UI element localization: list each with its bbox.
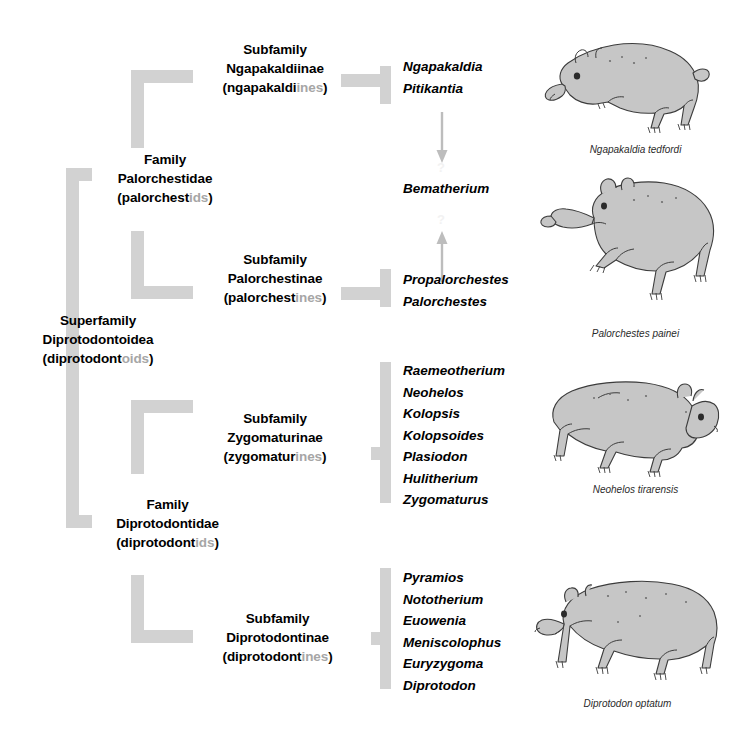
arrow-down-to-bematherium (432, 112, 452, 166)
family-palorchestidae-name: Palorchestidae (85, 169, 245, 188)
sub1-vern-close: ) (322, 290, 326, 305)
superfamily-vernacular: (diprotodontoids) (18, 349, 178, 368)
uncertainty-marker-lower: ? (437, 212, 445, 227)
uncertainty-marker-upper: ? (437, 160, 445, 175)
subfamily-zygomaturinae-rank: Subfamily (190, 409, 360, 428)
genus-item: Pyramios (403, 567, 501, 589)
connector-palorchestinae-vertical (380, 269, 391, 307)
genus-item: Plasiodon (403, 446, 505, 468)
family-diprotodontidae-vernacular: (diprotodontids) (80, 533, 255, 552)
label-superfamily: Superfamily Diprotodontoidea (diprotodon… (18, 311, 178, 368)
family-palorchestidae-rank: Family (85, 150, 245, 169)
fam0-vern-suffix: ids (189, 190, 208, 205)
subfamily-zygomaturinae-vernacular: (zygomaturines) (190, 447, 360, 466)
bracket-diprotodontidae-lower-horizontal (131, 630, 193, 643)
sub1-vern-suffix: ines (295, 290, 322, 305)
subfamily-diprotodontinae-vernacular: (diprotodontines) (190, 647, 365, 666)
genus-item: Ngapakaldia (403, 56, 483, 78)
connector-diprotodontinae-vertical (380, 568, 391, 689)
subfamily-diprotodontinae-rank: Subfamily (190, 609, 365, 628)
fam0-vern-stem: palorchest (122, 190, 189, 205)
superfamily-rank: Superfamily (18, 311, 178, 330)
bracket-diprotodontidae-upper-horizontal (131, 400, 193, 413)
sub2-vern-close: ) (322, 449, 326, 464)
sub3-vern-suffix: ines (302, 649, 329, 664)
subfamily-palorchestinae-rank: Subfamily (190, 250, 360, 269)
genus-item: Pitikantia (403, 78, 483, 100)
genus-item: Kolopsis (403, 403, 505, 425)
sub0-vern-suffix: ines (296, 80, 323, 95)
genus-item: Propalorchestes (403, 269, 509, 291)
sub3-vern-stem: diprotodont (227, 649, 302, 664)
connector-zygomaturinae-vertical (380, 362, 391, 503)
caption-neohelos: Neohelos tirarensis (538, 484, 733, 495)
subfamily-palorchestinae-name: Palorchestinae (190, 269, 360, 288)
caption-diprotodon: Diprotodon optatum (530, 698, 725, 709)
genus-item: Palorchestes (403, 291, 509, 313)
genus-item: Kolopsoides (403, 425, 505, 447)
illustration-diprotodon (530, 570, 725, 690)
genus-item: Nototherium (403, 589, 501, 611)
superfamily-vern-stem: diprotodont (47, 351, 122, 366)
fam1-vern-stem: diprotodont (121, 535, 196, 550)
label-subfamily-palorchestinae: Subfamily Palorchestinae (palorchestines… (190, 250, 360, 307)
genus-bematherium: Bematherium (403, 181, 489, 196)
sub0-vern-stem: ngapakaldi (227, 80, 297, 95)
superfamily-name: Diprotodontoidea (18, 330, 178, 349)
subfamily-ngapakaldiinae-vernacular: (ngapakaldiines) (190, 78, 360, 97)
label-subfamily-zygomaturinae: Subfamily Zygomaturinae (zygomaturines) (190, 409, 360, 466)
illustration-ngapakaldia (538, 28, 733, 143)
genera-zygomaturinae: Raemeotherium Neohelos Kolopsis Kolopsoi… (403, 360, 505, 511)
label-family-diprotodontidae: Family Diprotodontidae (diprotodontids) (80, 495, 255, 552)
fam1-vern-suffix: ids (195, 535, 214, 550)
genus-item: Diprotodon (403, 675, 501, 697)
genera-ngapakaldiinae: Ngapakaldia Pitikantia (403, 56, 483, 99)
sub3-vern-close: ) (328, 649, 332, 664)
label-subfamily-diprotodontinae: Subfamily Diprotodontinae (diprotodontin… (190, 609, 365, 666)
genera-diprotodontinae: Pyramios Nototherium Euowenia Meniscolop… (403, 567, 501, 696)
label-family-palorchestidae: Family Palorchestidae (palorchestids) (85, 150, 245, 207)
bracket-palorchestidae-upper-horizontal (131, 70, 193, 83)
fam0-vern-close: ) (208, 190, 212, 205)
family-diprotodontidae-rank: Family (80, 495, 255, 514)
family-palorchestidae-vernacular: (palorchestids) (85, 188, 245, 207)
genera-palorchestinae: Propalorchestes Palorchestes (403, 269, 509, 312)
sub2-vern-stem: zygomatur (228, 449, 295, 464)
genus-item: Raemeotherium (403, 360, 505, 382)
caption-ngapakaldia: Ngapakaldia tedfordi (538, 144, 733, 155)
genus-item: Neohelos (403, 382, 505, 404)
label-subfamily-ngapakaldiinae: Subfamily Ngapakaldiinae (ngapakaldiines… (190, 40, 360, 97)
fam1-vern-close: ) (214, 535, 218, 550)
subfamily-zygomaturinae-name: Zygomaturinae (190, 428, 360, 447)
subfamily-diprotodontinae-name: Diprotodontinae (190, 628, 365, 647)
superfamily-vern-close: ) (149, 351, 153, 366)
illustration-neohelos (538, 368, 733, 483)
connector-ngapakaldiinae-vertical (380, 66, 391, 104)
sub2-vern-suffix: ines (295, 449, 322, 464)
family-diprotodontidae-name: Diprotodontidae (80, 514, 255, 533)
illustration-palorchestes (538, 170, 733, 315)
genus-item: Meniscolophus (403, 632, 501, 654)
sub1-vern-stem: palorchest (228, 290, 295, 305)
cladogram-figure: ? ? Superfamily Diprotodontoidea (diprot… (0, 0, 738, 731)
genus-item: Hulitherium (403, 468, 505, 490)
subfamily-ngapakaldiinae-name: Ngapakaldiinae (190, 59, 360, 78)
genus-item: Euryzygoma (403, 653, 501, 675)
genus-item: Zygomaturus (403, 489, 505, 511)
sub0-vern-close: ) (323, 80, 327, 95)
subfamily-ngapakaldiinae-rank: Subfamily (190, 40, 360, 59)
superfamily-vern-suffix: oids (122, 351, 149, 366)
bracket-palorchestidae-lower-horizontal (131, 286, 193, 299)
caption-palorchestes: Palorchestes painei (538, 328, 733, 339)
subfamily-palorchestinae-vernacular: (palorchestines) (190, 288, 360, 307)
genus-item: Euowenia (403, 610, 501, 632)
